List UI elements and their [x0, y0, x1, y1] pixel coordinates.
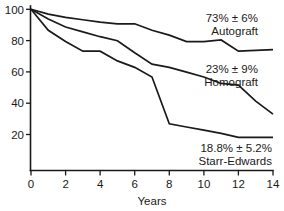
x-tick-label-6: 6: [131, 178, 137, 190]
survival-curve-chart: 100 80 60 40 20 0 2 4 6 8 10 12 14 Years…: [0, 0, 284, 211]
annotation-starr-edwards-label: Starr-Edwards: [199, 155, 273, 167]
x-tick-label-10: 10: [198, 178, 211, 190]
x-tick-label-2: 2: [62, 178, 68, 190]
annotation-homograft-label: Homograft: [204, 76, 258, 88]
x-tick-label-4: 4: [97, 178, 104, 190]
x-tick-label-14: 14: [267, 178, 280, 190]
y-tick-label-60: 60: [11, 66, 24, 78]
x-axis-title: Years: [138, 195, 167, 207]
y-tick-label-80: 80: [11, 35, 24, 47]
y-tick-label-40: 40: [11, 97, 24, 109]
x-tick-label-8: 8: [166, 178, 172, 190]
x-tick-label-0: 0: [28, 178, 34, 190]
plot-area: 100 80 60 40 20 0 2 4 6 8 10 12 14 Years…: [0, 0, 284, 211]
x-tick-label-12: 12: [232, 178, 245, 190]
y-tick-label-100: 100: [5, 4, 24, 16]
annotation-autograft-value: 73% ± 6%: [206, 12, 258, 24]
annotation-homograft-value: 23% ± 9%: [206, 63, 258, 75]
annotation-autograft-label: Autograft: [211, 25, 258, 37]
y-tick-label-20: 20: [11, 129, 24, 141]
annotation-starr-edwards-value: 18.8% ± 5.2%: [200, 142, 272, 154]
